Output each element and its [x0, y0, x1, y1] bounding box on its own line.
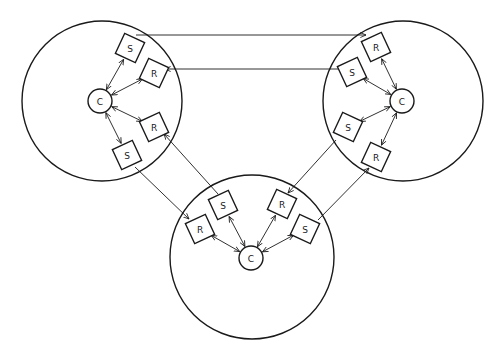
hub-link	[360, 107, 391, 122]
node-label: S	[127, 44, 133, 54]
coordinator-label: C	[248, 254, 254, 264]
coordinator-label: C	[399, 97, 405, 107]
node-label: S	[302, 225, 308, 235]
coordinator-node: C	[88, 89, 112, 113]
receiver-node: R	[267, 189, 296, 218]
cluster-bottom: CRSRS	[170, 175, 334, 339]
hub-link	[381, 113, 396, 145]
receiver-node: R	[361, 142, 390, 171]
node-label: R	[197, 225, 203, 235]
node-label: S	[345, 123, 351, 133]
inter-cluster-links	[135, 35, 369, 220]
receiver-node: R	[361, 32, 390, 61]
node-label: S	[349, 68, 355, 78]
sender-node: S	[333, 112, 362, 141]
sender-node: S	[115, 33, 144, 62]
receiver-node: R	[139, 58, 168, 87]
node-label: R	[373, 43, 379, 53]
hub-link	[257, 215, 275, 246]
link-L-S2-to-B-R1	[135, 167, 189, 219]
coordinator-label: C	[97, 97, 103, 107]
link-R-S2-to-B-R2	[288, 140, 336, 193]
sender-node: S	[208, 190, 237, 219]
hub-link	[363, 79, 391, 95]
diagram-svg: CSRRSCRSSRCRSRS	[0, 0, 499, 359]
sender-node: S	[337, 57, 366, 86]
distributed-system-diagram: CSRRSCRSSRCRSRS	[0, 0, 499, 359]
node-label: R	[151, 69, 157, 79]
sender-node: S	[112, 140, 141, 169]
hub-link	[229, 216, 245, 246]
receiver-node: R	[139, 112, 168, 141]
node-label: R	[279, 200, 285, 210]
hub-link	[106, 113, 121, 144]
receiver-node: R	[185, 214, 214, 243]
cluster-right: CRSSR	[323, 21, 483, 181]
node-label: S	[220, 201, 226, 211]
hub-link	[112, 79, 143, 95]
hub-link	[112, 107, 143, 122]
node-label: R	[373, 153, 379, 163]
node-label: S	[124, 151, 130, 161]
hub-link	[106, 59, 123, 89]
link-B-S1-to-L-R2	[164, 134, 218, 194]
sender-node: S	[290, 214, 319, 243]
hub-link	[262, 235, 293, 252]
hub-link	[211, 235, 239, 251]
cluster-left: CSRRS	[22, 21, 182, 181]
link-B-S2-to-R-R2	[318, 168, 369, 220]
hub-link	[382, 59, 397, 90]
coordinator-node: C	[390, 89, 414, 113]
coordinator-node: C	[239, 246, 263, 270]
node-label: R	[151, 123, 157, 133]
